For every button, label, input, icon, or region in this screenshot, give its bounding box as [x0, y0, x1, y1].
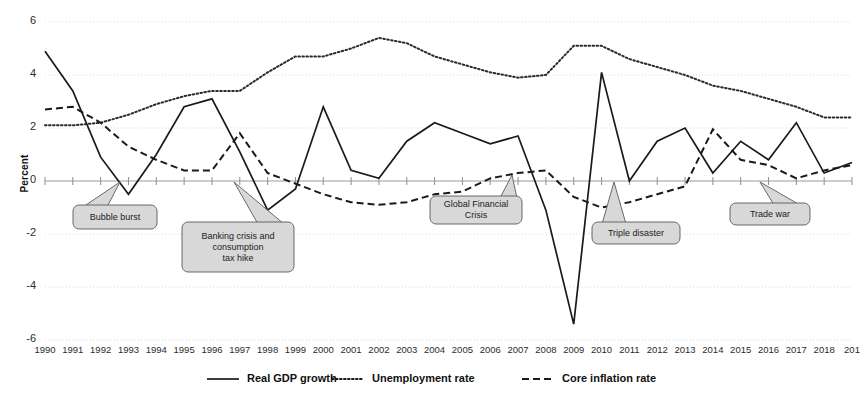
legend-item-unemployment-rate[interactable]: Unemployment rate: [330, 372, 475, 384]
legend-swatch-solid: [205, 374, 243, 384]
x-axis-tick-label: 1995: [170, 344, 198, 355]
legend-swatch-dashed: [520, 374, 558, 384]
x-axis-tick-label: 2003: [393, 344, 421, 355]
x-axis-tick-label: 2008: [532, 344, 560, 355]
y-axis-tick-label: -6: [2, 332, 36, 344]
legend-label: Unemployment rate: [372, 372, 475, 384]
series-line-unemployment-rate: [45, 38, 852, 125]
legend-label: Real GDP growth: [247, 372, 337, 384]
annotation-callouts: [73, 175, 810, 272]
x-axis-tick-label: 2002: [365, 344, 393, 355]
x-axis-tick-label: 1996: [198, 344, 226, 355]
y-axis-tick-label: 6: [2, 14, 36, 26]
legend-label: Core inflation rate: [562, 372, 656, 384]
callout-pointer: [602, 182, 626, 224]
y-axis-tick-label: 4: [2, 67, 36, 79]
callout-box[interactable]: [73, 205, 157, 229]
x-axis-tick-label: 2004: [421, 344, 449, 355]
x-axis-tick-label: 1991: [59, 344, 87, 355]
x-axis-tick-label: 2013: [671, 344, 699, 355]
callout-pointer: [760, 182, 800, 205]
x-axis-tick-label: 2015: [727, 344, 755, 355]
callout-box[interactable]: [730, 203, 810, 225]
x-axis-tick-label: 2000: [309, 344, 337, 355]
series-line-core-inflation-rate: [45, 107, 852, 208]
x-axis-tick-label: 2016: [755, 344, 783, 355]
series-line-real-gdp-growth: [45, 51, 852, 324]
y-axis-tick-label: 0: [2, 173, 36, 185]
x-axis-tick-label: 1997: [226, 344, 254, 355]
callout-box[interactable]: [430, 196, 522, 224]
legend-swatch-dotted: [330, 374, 368, 384]
x-axis-tick-label: 2009: [560, 344, 588, 355]
legend-item-real-gdp-growth[interactable]: Real GDP growth: [205, 372, 337, 384]
x-axis-tick-label: 201: [838, 344, 865, 355]
x-axis-tick-label: 2007: [504, 344, 532, 355]
y-axis-tick-label: -4: [2, 279, 36, 291]
callout-box[interactable]: [182, 222, 294, 272]
x-axis-tick-label: 1994: [142, 344, 170, 355]
gridlines: [45, 22, 852, 340]
x-axis-tick-label: 1993: [114, 344, 142, 355]
x-axis-tick-label: 2010: [588, 344, 616, 355]
x-axis-tick-label: 2014: [699, 344, 727, 355]
x-axis-tick-label: 2011: [615, 344, 643, 355]
x-axis-tick-label: 1992: [87, 344, 115, 355]
callout-pointer: [83, 182, 120, 207]
callout-box[interactable]: [592, 222, 680, 244]
legend-item-core-inflation-rate[interactable]: Core inflation rate: [520, 372, 656, 384]
x-axis-tick-label: 2012: [643, 344, 671, 355]
x-axis-tick-label: 2017: [782, 344, 810, 355]
y-axis-tick-label: 2: [2, 120, 36, 132]
x-axis-tick-label: 2006: [476, 344, 504, 355]
x-axis-tick-label: 1998: [254, 344, 282, 355]
x-axis-tick-label: 2005: [448, 344, 476, 355]
x-axis-tick-label: 1999: [281, 344, 309, 355]
y-axis-tick-label: -2: [2, 226, 36, 238]
x-axis-tick-label: 2001: [337, 344, 365, 355]
x-axis-tick-label: 1990: [31, 344, 59, 355]
x-axis-tick-label: 2018: [810, 344, 838, 355]
